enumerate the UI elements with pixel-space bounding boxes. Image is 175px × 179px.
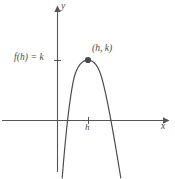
figure-canvas: [0, 0, 175, 179]
y-axis-arrowhead: [54, 6, 60, 13]
x-axis-label: x: [161, 122, 165, 132]
parabola-figure: f(h) = k (h, k) h y x: [0, 0, 175, 179]
vertex-dot: [85, 57, 91, 63]
vertex-coordinates-label: (h, k): [92, 44, 112, 54]
parabola-curve: [62, 60, 121, 178]
y-axis-label: y: [61, 2, 65, 12]
x-tick-label-h: h: [85, 123, 90, 132]
function-value-label: f(h) = k: [14, 53, 44, 63]
